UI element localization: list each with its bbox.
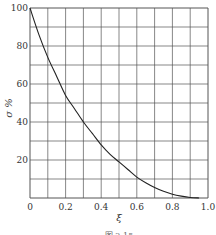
y-tick-label: 60 bbox=[17, 79, 29, 89]
x-axis-label: ξ bbox=[116, 212, 122, 223]
figure-caption: 图 2-15 bbox=[105, 231, 134, 235]
y-tick-label: 40 bbox=[17, 117, 29, 127]
x-tick-label: 0.6 bbox=[130, 202, 145, 212]
y-tick-label: 80 bbox=[17, 41, 29, 51]
y-tick-label: 20 bbox=[17, 155, 29, 165]
grid bbox=[30, 8, 208, 198]
x-tick-labels: 00.20.40.60.81.0 bbox=[27, 202, 215, 212]
y-tick-label: 100 bbox=[11, 3, 28, 13]
x-tick-label: 0.4 bbox=[94, 202, 109, 212]
y-axis-label: σ % bbox=[3, 98, 14, 118]
y-tick-labels: 20406080100 bbox=[11, 3, 28, 165]
chart: 00.20.40.60.81.0 20406080100 σ % ξ 图 2-1… bbox=[0, 0, 216, 235]
x-tick-label: 0.2 bbox=[58, 202, 72, 212]
x-tick-label: 0.8 bbox=[165, 202, 180, 212]
x-tick-label: 0 bbox=[27, 202, 33, 212]
x-tick-label: 1.0 bbox=[201, 202, 216, 212]
